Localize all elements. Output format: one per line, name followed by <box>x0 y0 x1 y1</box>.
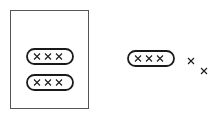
diagram-canvas <box>0 0 219 118</box>
capsule-group-inside <box>27 49 174 90</box>
capsule-2 <box>27 75 73 90</box>
capsule-outline <box>27 49 73 64</box>
loose-x-mark-1 <box>188 58 194 64</box>
capsule-1 <box>27 49 73 64</box>
loose-mark-group <box>188 58 207 74</box>
diagram-svg <box>0 0 219 118</box>
capsule-outline <box>128 51 174 66</box>
loose-x-mark-2 <box>201 68 207 74</box>
capsule-3 <box>128 51 174 66</box>
capsule-outline <box>27 75 73 90</box>
